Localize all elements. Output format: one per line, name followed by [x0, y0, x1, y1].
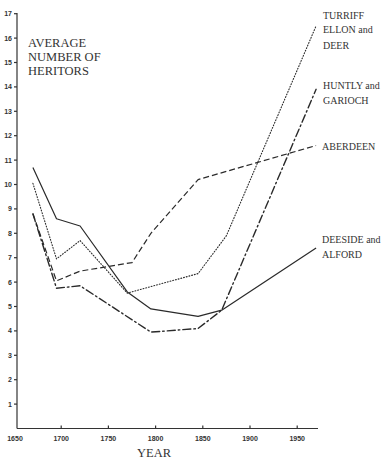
y-tick-label: 15 — [4, 59, 12, 66]
x-tick-label: 1650 — [7, 435, 23, 442]
y-tick-label: 11 — [5, 157, 13, 164]
series-labels: TURRIFF ELLON and DEER HUNTLY and GARIOC… — [322, 10, 381, 260]
x-tick-label: 1900 — [242, 435, 258, 442]
y-tick-label: 13 — [4, 108, 12, 115]
y-tick-label: 16 — [4, 35, 12, 42]
label-deeside-line2: ALFORD — [322, 249, 362, 260]
y-tick-label: 1 — [8, 401, 12, 408]
y-tick-label: 2 — [8, 376, 12, 383]
y-axis-ticks: 1234567891011121314151617 — [4, 10, 17, 407]
x-tick-label: 1800 — [148, 435, 164, 442]
y-axis: 1234567891011121314151617 — [4, 10, 17, 428]
title-line-2: NUMBER OF — [28, 50, 101, 64]
series-aberdeen — [33, 146, 316, 281]
y-tick-label: 9 — [8, 205, 12, 212]
label-turriff-line3: DEER — [323, 40, 349, 51]
y-tick-label: 7 — [8, 254, 12, 261]
x-tick-label: 1850 — [195, 435, 211, 442]
x-tick-label: 1750 — [101, 435, 117, 442]
y-tick-label: 17 — [4, 10, 12, 17]
x-axis-title: YEAR — [137, 446, 172, 460]
x-tick-label: 1950 — [289, 435, 305, 442]
y-tick-label: 6 — [8, 279, 12, 286]
y-tick-label: 10 — [4, 181, 12, 188]
y-tick-label: 5 — [8, 303, 12, 310]
x-axis: 1650170017501800185019001950 — [7, 426, 318, 442]
label-huntly-line2: GARIOCH — [323, 95, 369, 106]
heritors-line-chart: 1234567891011121314151617 16501700175018… — [0, 0, 384, 461]
y-tick-label: 12 — [4, 132, 12, 139]
chart-title: AVERAGE NUMBER OF HERITORS — [28, 36, 101, 78]
label-aberdeen: ABERDEEN — [322, 141, 375, 152]
label-turriff-line1: TURRIFF — [323, 10, 365, 21]
title-line-1: AVERAGE — [28, 36, 86, 50]
title-line-3: HERITORS — [28, 64, 89, 78]
label-deeside-line1: DEESIDE and — [322, 234, 381, 245]
label-huntly-line1: HUNTLY and — [323, 80, 380, 91]
y-tick-label: 4 — [8, 327, 12, 334]
x-tick-label: 1700 — [53, 435, 69, 442]
y-tick-label: 14 — [4, 83, 12, 90]
label-turriff-line2: ELLON and — [323, 24, 373, 35]
y-tick-label: 8 — [8, 230, 12, 237]
y-tick-label: 3 — [8, 352, 12, 359]
